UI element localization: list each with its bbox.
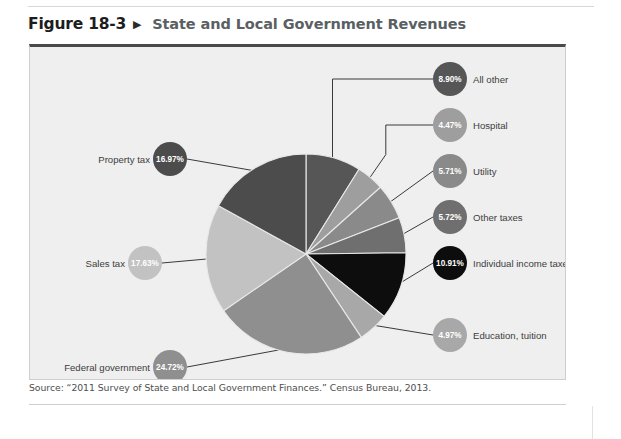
body-text-sliver [50,424,590,439]
pie-slices-group [206,154,406,354]
triangle-right-icon: ▶ [133,19,141,30]
callout-percent: 10.91% [436,259,464,268]
leader-line [388,171,433,204]
figure-header: Figure 18-3 ▶ State and Local Government… [28,12,588,36]
source-note-wrap: Source: “2011 Survey of State and Local … [29,382,566,412]
figure-root: Figure 18-3 ▶ State and Local Government… [0,0,621,439]
callout-percent: 8.90% [438,75,462,84]
source-note: Source: “2011 Survey of State and Local … [29,382,566,393]
leader-line [400,217,433,236]
leader-line [371,325,433,335]
figure-title: State and Local Government Revenues [152,16,466,32]
leader-line [187,348,288,367]
callout-label: Utility [473,166,497,177]
callout-label: Hospital [473,120,508,131]
leader-line [333,79,434,162]
page-column-rule [592,406,593,439]
leader-line [368,125,433,181]
header-divider [28,6,594,7]
callout-label: All other [473,74,509,85]
callout-percent: 24.72% [156,363,184,372]
callout-label: Sales tax [86,258,126,269]
callout-label: Property tax [98,154,150,165]
callout-label: Federal government [64,362,150,373]
figure-number: Figure 18-3 [28,15,126,33]
leader-line [187,159,257,171]
callout-percent: 17.63% [131,259,159,268]
callout-percent: 5.72% [438,213,462,222]
callout-percent: 4.97% [438,331,462,340]
callout-label: Education, tuition [473,330,547,341]
pie-chart: 8.90%All other4.47%Hospital5.71%Utility5… [30,47,565,379]
callout-percent: 4.47% [438,121,462,130]
pie-chart-svg: 8.90%All other4.47%Hospital5.71%Utility5… [30,47,565,379]
callout-percent: 5.71% [438,167,462,176]
callout-label: Other taxes [473,212,523,223]
leader-line [162,259,210,263]
chart-panel: 8.90%All other4.47%Hospital5.71%Utility5… [29,44,566,380]
callout-label: Individual income taxes [473,258,565,269]
callout-percent: 16.97% [156,155,184,164]
